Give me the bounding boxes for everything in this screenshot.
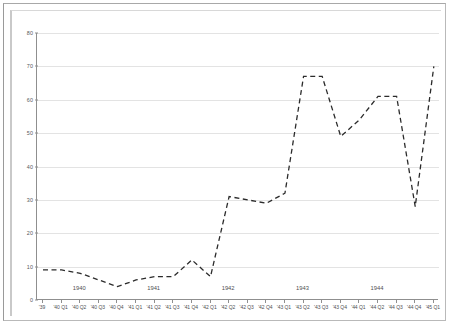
x-axis-tick-label: '43 Q2 <box>295 304 309 310</box>
x-axis-tick-label: '44 Q3 <box>388 304 402 310</box>
x-axis-tick-label: '41 Q3 <box>165 304 179 310</box>
x-axis-tick-mark <box>210 300 211 303</box>
x-axis-year-label: 1940 <box>73 285 86 291</box>
y-axis-tick-label: 20 <box>27 230 33 236</box>
x-axis-tick-label: '43 Q3 <box>314 304 328 310</box>
x-axis-tick-mark <box>340 300 341 303</box>
x-axis-tick-label: '43 Q1 <box>277 304 291 310</box>
x-axis-tick-label: '44 Q4 <box>407 304 421 310</box>
x-axis-tick-label: '40 Q3 <box>91 304 105 310</box>
plot-area: 01020304050607080 <box>36 33 438 300</box>
x-axis-tick-mark <box>265 300 266 303</box>
x-axis-tick-label: '43 Q4 <box>333 304 347 310</box>
chart-figure: 01020304050607080 19401941194219431944 '… <box>0 0 450 326</box>
x-axis-tick-mark <box>116 300 117 303</box>
x-axis-tick-label: '42 Q3 <box>240 304 254 310</box>
series-polyline <box>43 66 434 286</box>
x-axis-tick-label: '41 Q2 <box>147 304 161 310</box>
y-axis-tick-label: 60 <box>27 97 33 103</box>
x-axis-tick-label: '40 Q4 <box>109 304 123 310</box>
x-axis-tick-mark <box>42 300 43 303</box>
y-axis-tick-label: 50 <box>27 130 33 136</box>
x-axis-tick-mark <box>247 300 248 303</box>
x-axis-tick-mark <box>358 300 359 303</box>
x-axis-tick-label: '40 Q1 <box>53 304 67 310</box>
x-axis-tick-label: '42 Q2 <box>221 304 235 310</box>
y-axis-tick-label: 10 <box>27 264 33 270</box>
x-axis-tick-label: '41 Q4 <box>184 304 198 310</box>
y-axis-tick-label: 70 <box>27 63 33 69</box>
x-axis-tick-mark <box>61 300 62 303</box>
x-axis-tick-mark <box>396 300 397 303</box>
x-axis-year-label: 1944 <box>371 285 384 291</box>
x-axis-year-label: 1941 <box>147 285 160 291</box>
x-axis-tick-mark <box>433 300 434 303</box>
x-axis-year-label: 1942 <box>222 285 235 291</box>
x-axis-tick-label: '42 Q1 <box>202 304 216 310</box>
x-axis-tick-mark <box>228 300 229 303</box>
y-axis-tick-label: 0 <box>30 297 33 303</box>
y-axis-tick-label: 80 <box>27 30 33 36</box>
x-axis-tick-mark <box>414 300 415 303</box>
x-axis-tick-mark <box>98 300 99 303</box>
x-axis-ticks: '39'40 Q1'40 Q2'40 Q3'40 Q4'41 Q1'41 Q2'… <box>36 300 438 326</box>
x-axis-tick-mark <box>377 300 378 303</box>
x-axis-tick-label: '44 Q2 <box>370 304 384 310</box>
x-axis-tick-label: '39 <box>39 304 45 310</box>
x-axis-year-labels: 19401941194219431944 <box>36 285 438 297</box>
y-axis-tick-label: 40 <box>27 164 33 170</box>
x-axis-tick-mark <box>154 300 155 303</box>
x-axis-tick-mark <box>284 300 285 303</box>
x-axis-tick-label: '42 Q4 <box>258 304 272 310</box>
x-axis-tick-label: '41 Q1 <box>128 304 142 310</box>
series-line <box>37 33 439 300</box>
x-axis-tick-mark <box>135 300 136 303</box>
x-axis-tick-label: '40 Q2 <box>72 304 86 310</box>
x-axis-tick-mark <box>172 300 173 303</box>
x-axis-tick-mark <box>303 300 304 303</box>
x-axis-tick-label: '45 Q1 <box>426 304 440 310</box>
y-axis-tick-label: 30 <box>27 197 33 203</box>
x-axis-year-label: 1943 <box>296 285 309 291</box>
x-axis-tick-label: '44 Q1 <box>351 304 365 310</box>
x-axis-tick-mark <box>79 300 80 303</box>
x-axis-tick-mark <box>321 300 322 303</box>
x-axis-tick-mark <box>191 300 192 303</box>
